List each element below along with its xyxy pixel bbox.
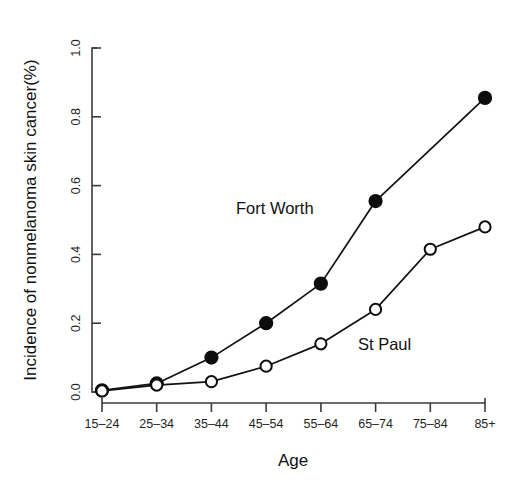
x-tick-label: 45–54 [249, 417, 284, 431]
data-point-st-paul [370, 304, 381, 315]
x-tick-label: 75–84 [413, 417, 448, 431]
data-point-fort-worth [205, 351, 218, 364]
y-tick-label: 0.0 [69, 383, 83, 400]
x-tick-label: 85+ [474, 417, 495, 431]
x-tick-label: 25–34 [139, 417, 174, 431]
data-point-st-paul [315, 338, 326, 349]
data-point-st-paul [479, 221, 490, 232]
series-layer [96, 91, 492, 396]
series-label-st-paul: St Paul [358, 335, 411, 353]
y-tick-label: 0.8 [69, 108, 83, 125]
y-tick-label: 0.4 [69, 246, 83, 263]
x-tick-label: 35–44 [194, 417, 229, 431]
x-axis-title: Age [278, 451, 308, 470]
x-tick-label: 55–64 [304, 417, 339, 431]
y-axis-ticks [92, 48, 101, 392]
y-tick-label: 0.6 [69, 177, 83, 194]
y-axis-tick-labels: 0.0 0.2 0.4 0.6 0.8 1.0 [69, 39, 83, 400]
x-axis-ticks [102, 403, 485, 412]
data-point-fort-worth [369, 195, 382, 208]
data-point-fort-worth [314, 277, 327, 290]
y-tick-label: 1.0 [69, 39, 83, 56]
chart-figure: 0.0 0.2 0.4 0.6 0.8 1.0 Incidence of non… [0, 0, 514, 495]
data-point-st-paul [96, 385, 107, 396]
chart-canvas: 0.0 0.2 0.4 0.6 0.8 1.0 Incidence of non… [0, 0, 514, 495]
x-axis-line [102, 398, 485, 403]
data-point-fort-worth [479, 91, 492, 104]
x-tick-label: 15–24 [85, 417, 120, 431]
data-point-st-paul [261, 361, 272, 372]
y-axis-line [92, 48, 97, 392]
data-point-st-paul [151, 380, 162, 391]
x-tick-label: 65–74 [358, 417, 393, 431]
data-point-st-paul [425, 244, 436, 255]
x-axis-tick-labels: 15–24 25–34 35–44 45–54 55–64 65–74 75–8… [85, 417, 496, 431]
series-label-fort-worth: Fort Worth [236, 199, 314, 217]
y-tick-label: 0.2 [69, 314, 83, 331]
data-point-fort-worth [260, 317, 273, 330]
y-axis-title: Incidence of nonmelanoma skin cancer(%) [21, 59, 40, 380]
data-point-st-paul [206, 376, 217, 387]
